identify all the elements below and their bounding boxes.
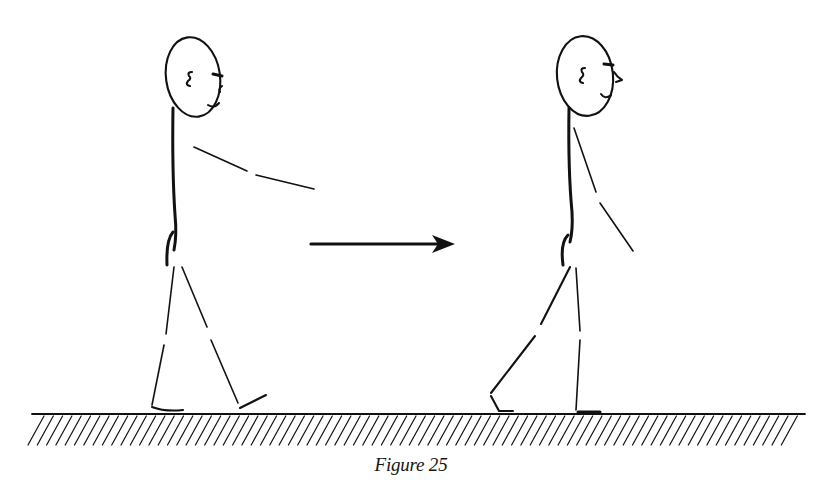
- left-figure-nose: [219, 86, 222, 92]
- left-figure-forearm: [256, 175, 314, 189]
- right-figure-spine: [569, 108, 572, 242]
- left-figure-back-shin: [152, 345, 164, 405]
- left-walking-figure: [152, 34, 314, 411]
- left-figure-back-foot: [152, 407, 183, 411]
- right-figure-back-shin: [491, 336, 535, 393]
- left-figure-front-foot: [240, 395, 266, 408]
- hatched-ground: [28, 414, 805, 445]
- left-figure-front-thigh: [182, 267, 207, 327]
- figure-illustration: [0, 0, 822, 495]
- left-figure-front-shin: [211, 340, 238, 403]
- right-figure-ear: [580, 68, 585, 83]
- left-figure-back-thigh: [166, 267, 174, 334]
- right-figure-forearm: [600, 203, 633, 251]
- left-figure-ear: [187, 72, 192, 86]
- left-figure-head: [161, 34, 226, 121]
- right-figure-eye: [604, 64, 613, 65]
- right-walking-figure: [491, 33, 633, 412]
- right-figure-hip: [562, 235, 568, 265]
- direction-arrow: [311, 235, 455, 253]
- figure-caption: Figure 25: [0, 454, 822, 476]
- right-figure-back-foot: [491, 396, 513, 411]
- right-figure-mouth: [601, 94, 611, 97]
- right-figure-head: [553, 33, 617, 118]
- right-figure-front-shin: [576, 340, 580, 410]
- right-figure-front-thigh: [576, 268, 580, 331]
- left-figure-spine: [173, 108, 176, 250]
- right-figure-upper-arm: [574, 128, 596, 192]
- left-figure-eye: [213, 74, 222, 76]
- left-figure-hip: [167, 232, 173, 265]
- right-figure-nose: [614, 72, 622, 82]
- left-figure-upper-arm: [194, 147, 247, 171]
- right-figure-back-thigh: [541, 267, 570, 324]
